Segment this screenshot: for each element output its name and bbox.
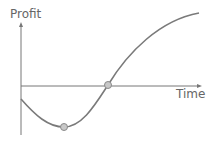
minimum-point-marker	[61, 124, 68, 131]
profit-curve	[21, 13, 199, 127]
y-axis-label: Profit	[10, 8, 41, 20]
y-axis-arrow-icon	[19, 22, 23, 27]
x-axis-label: Time	[176, 88, 205, 100]
break-even-point-marker	[105, 82, 112, 89]
profit-time-diagram	[0, 0, 211, 142]
